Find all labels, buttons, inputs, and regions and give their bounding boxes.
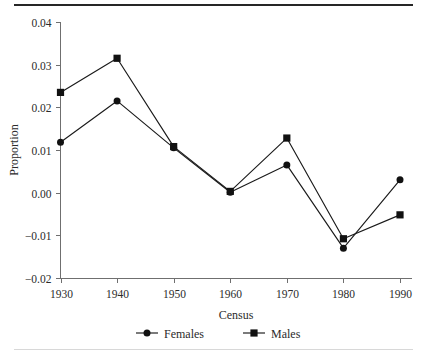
line-chart: 0.040.030.020.010.00−0.01−0.02 193019401… [0, 0, 427, 357]
series-males [57, 55, 404, 243]
legend-square-icon [250, 329, 257, 336]
data-point-males-1970 [283, 134, 290, 141]
x-axis-ticks [62, 278, 401, 283]
legend-circle-icon [144, 330, 151, 337]
data-point-males-1990 [396, 211, 403, 218]
y-axis-tick-labels: 0.040.030.020.010.00−0.01−0.02 [25, 17, 52, 285]
y-tick-label-5: −0.01 [25, 230, 52, 242]
series-line-males [61, 58, 401, 238]
data-point-females-1940 [114, 97, 121, 104]
data-point-males-1960 [227, 188, 234, 195]
data-point-females-1980 [340, 245, 347, 252]
y-axis-ticks [56, 23, 61, 279]
x-tick-label-3: 1960 [219, 288, 242, 300]
x-tick-label-5: 1980 [332, 288, 355, 300]
x-tick-label-4: 1970 [276, 288, 299, 300]
y-tick-label-4: 0.00 [31, 188, 51, 200]
data-point-males-1950 [170, 143, 177, 150]
legend-item-males[interactable]: Males [243, 327, 301, 341]
data-point-males-1930 [57, 89, 64, 96]
series-females [57, 97, 404, 251]
legend-item-females[interactable]: Females [136, 327, 204, 341]
x-tick-label-1: 1940 [106, 288, 129, 300]
data-point-females-1990 [397, 176, 404, 183]
chart-legend: FemalesMales [136, 327, 301, 341]
x-axis-title: Census [219, 308, 254, 322]
x-tick-label-0: 1930 [50, 288, 73, 300]
data-point-females-1930 [57, 139, 64, 146]
data-point-females-1970 [283, 161, 290, 168]
y-axis-title: Proportion [7, 124, 21, 175]
legend-label-males: Males [271, 327, 301, 341]
x-axis-tick-labels: 1930194019501960197019801990 [50, 288, 412, 300]
y-tick-label-1: 0.03 [31, 60, 51, 72]
data-point-males-1940 [113, 55, 120, 62]
y-tick-label-2: 0.02 [31, 102, 51, 114]
data-series-group [57, 55, 404, 252]
legend-label-females: Females [164, 327, 204, 341]
y-tick-label-0: 0.04 [31, 17, 51, 29]
y-tick-label-3: 0.01 [31, 145, 51, 157]
figure-container: 0.040.030.020.010.00−0.01−0.02 193019401… [0, 0, 427, 357]
y-tick-label-6: −0.02 [25, 273, 52, 285]
x-tick-label-6: 1990 [389, 288, 412, 300]
data-point-males-1980 [340, 235, 347, 242]
x-tick-label-2: 1950 [163, 288, 186, 300]
series-line-females [61, 101, 401, 248]
